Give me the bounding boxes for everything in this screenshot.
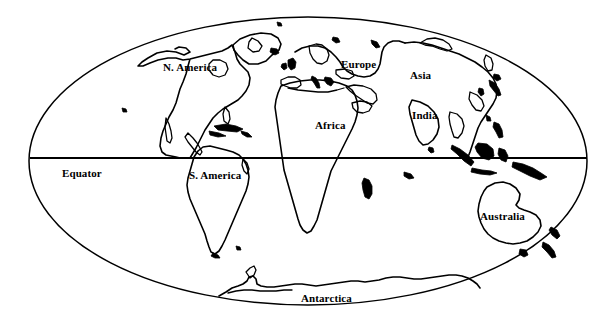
ireland-island <box>281 63 287 70</box>
novaya-zemlya-island <box>371 40 380 48</box>
label-europe: Europe <box>341 59 376 70</box>
madagascar-island <box>362 178 372 199</box>
india-outline <box>409 100 439 145</box>
world-map: N. America Europe Asia India Africa Equa… <box>0 0 615 326</box>
british-isles <box>288 58 296 70</box>
balkan-peninsula <box>324 77 334 86</box>
label-africa: Africa <box>315 120 346 131</box>
bering-islet <box>277 22 282 26</box>
florida-peninsula <box>223 107 230 124</box>
italy-peninsula <box>311 76 320 88</box>
caribbean-islands <box>214 124 243 132</box>
iceland-island <box>270 48 279 55</box>
taiwan-island <box>486 115 491 121</box>
new-zealand-south <box>542 242 556 258</box>
falkland-islands <box>236 246 241 250</box>
label-equator: Equator <box>62 168 102 179</box>
siberia-coast <box>420 38 452 51</box>
label-north-america: N. America <box>163 62 217 73</box>
hawaii-islands <box>122 108 127 112</box>
label-asia: Asia <box>410 70 431 81</box>
philippines-islands <box>493 122 503 138</box>
label-antarctica: Antarctica <box>301 293 352 304</box>
new-guinea-island <box>512 162 547 180</box>
tierra-del-fuego <box>211 253 220 258</box>
brazil-bulge <box>242 159 249 174</box>
sri-lanka-island <box>428 147 434 153</box>
kamchatka-peninsula <box>484 55 493 71</box>
label-south-america: S. America <box>189 170 241 181</box>
sulawesi-island <box>498 148 508 162</box>
south-america-outline <box>187 146 249 254</box>
indian-ocean-island <box>404 172 414 179</box>
indochina-peninsula <box>449 112 464 138</box>
africa-outline <box>275 80 358 233</box>
label-india: India <box>412 110 438 121</box>
cuba-island <box>209 131 226 137</box>
greenland-fjord <box>248 38 262 52</box>
svalbard-island <box>332 37 340 43</box>
korea-peninsula <box>478 88 484 96</box>
lesser-antilles <box>241 131 252 137</box>
world-map-svg <box>0 0 615 326</box>
label-australia: Australia <box>480 211 525 222</box>
baja-california <box>165 118 172 143</box>
java-island <box>471 168 497 175</box>
antarctica-inner-edge <box>228 290 292 293</box>
new-zealand-north <box>549 227 560 239</box>
